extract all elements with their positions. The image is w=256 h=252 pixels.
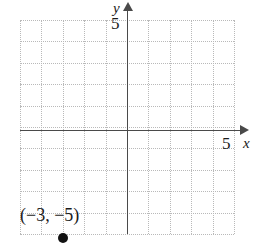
plotted-point: [58, 233, 68, 243]
x-axis-label: x: [243, 136, 250, 151]
point-coordinate-label: (−3, −5): [20, 206, 79, 224]
y-axis-tick-label-5: 5: [111, 15, 120, 32]
x-axis-tick-label-5: 5: [222, 135, 231, 152]
coordinate-plane-figure: y x 5 5 (−3, −5): [0, 0, 256, 252]
gridline-vertical: [234, 20, 235, 234]
x-axis-line: [20, 130, 242, 131]
gridline-horizontal: [20, 234, 234, 235]
y-axis-arrow-icon: [123, 2, 133, 11]
y-axis-line: [127, 10, 128, 234]
x-axis-arrow-icon: [240, 125, 249, 135]
